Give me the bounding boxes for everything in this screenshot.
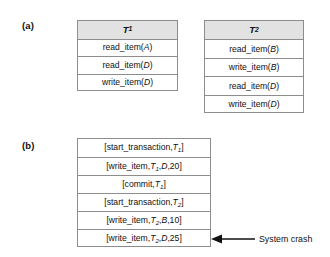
log-entry-type: write_item — [109, 233, 148, 243]
operation-label: read_item(D) — [229, 82, 279, 91]
table-row: write_item(D) — [205, 95, 303, 113]
operation-argument: A — [144, 42, 150, 52]
log-entry-txn-subscript: 2 — [178, 201, 181, 208]
log-entry-type: commit — [125, 179, 153, 189]
operation-label: write_item(B) — [229, 63, 280, 72]
log-entry-txn-subscript: 1 — [160, 183, 163, 190]
operation-label: write_item(D) — [228, 100, 279, 109]
log-entry-text: [commit,T1] — [122, 180, 166, 190]
transaction-table-t1: T1 read_item(A) read_item(D) write_item(… — [77, 20, 178, 91]
log-entry-type: start_transaction — [107, 142, 171, 152]
operation-argument: B — [271, 62, 277, 72]
log-entry-value: 10 — [170, 215, 180, 225]
figure-root: (a) T1 read_item(A) read_item(D) write_i… — [0, 0, 330, 257]
log-entry-value: 20 — [170, 161, 180, 171]
table-row: read_item(D) — [78, 56, 177, 74]
transaction-header-t2: T2 — [205, 21, 303, 39]
log-entry-row: [write_item,T2,D,25] — [78, 229, 210, 247]
log-entry-text: [write_item,T2,D,25] — [106, 234, 182, 244]
log-entry-row: [start_transaction,T1] — [78, 139, 210, 157]
log-entry-item: D — [161, 161, 167, 171]
system-crash-label: System crash — [259, 234, 312, 244]
operation-label: write_item(D) — [102, 78, 153, 87]
log-entry-row: [write_item,T1,D,20] — [78, 157, 210, 175]
table-row: read_item(A) — [78, 39, 177, 57]
log-entry-txn-subscript: 2 — [155, 237, 158, 244]
log-entry-row: [commit,T1] — [78, 175, 210, 193]
log-entry-text: [start_transaction,T1] — [104, 143, 183, 153]
log-entry-item: B — [161, 215, 167, 225]
table-row: write_item(B) — [205, 58, 303, 76]
transaction-header-t1-subscript: 1 — [128, 26, 132, 33]
transaction-table-t2: T2 read_item(B) write_item(B) read_item(… — [204, 20, 304, 113]
panel-label-a: (a) — [22, 20, 34, 31]
log-entry-row: [write_item,T2,B,10] — [78, 211, 210, 229]
table-row: read_item(B) — [205, 39, 303, 57]
operation-argument: D — [270, 81, 276, 91]
log-entry-text: [write_item,T1,D,20] — [106, 162, 182, 172]
operation-label: read_item(B) — [229, 45, 279, 54]
log-entry-type: start_transaction — [107, 197, 171, 207]
operation-argument: D — [270, 99, 276, 109]
table-row: write_item(D) — [78, 74, 177, 92]
log-entry-txn-subscript: 1 — [178, 146, 181, 153]
log-entry-text: [start_transaction,T2] — [104, 198, 183, 208]
log-entry-type: write_item — [109, 215, 148, 225]
transaction-header-t2-subscript: 2 — [255, 27, 259, 34]
operation-label: read_item(D) — [102, 61, 152, 70]
log-entry-txn-subscript: 2 — [156, 219, 159, 226]
log-entry-txn-subscript: 1 — [155, 164, 158, 171]
operation-argument: D — [143, 60, 149, 70]
table-row: read_item(D) — [205, 76, 303, 94]
log-entry-type: write_item — [109, 161, 148, 171]
log-entry-value: 25 — [170, 233, 180, 243]
operation-label: read_item(A) — [103, 43, 153, 52]
system-crash-annotation: System crash — [211, 230, 330, 252]
log-entry-text: [write_item,T2,B,10] — [106, 216, 181, 226]
system-log-table: [start_transaction,T1] [write_item,T1,D,… — [77, 138, 211, 247]
transaction-header-t1: T1 — [78, 21, 177, 39]
panel-label-b: (b) — [22, 140, 35, 151]
log-entry-item: D — [161, 233, 167, 243]
operation-argument: B — [270, 44, 276, 54]
log-entry-row: [start_transaction,T2] — [78, 193, 210, 211]
operation-argument: D — [144, 77, 150, 87]
